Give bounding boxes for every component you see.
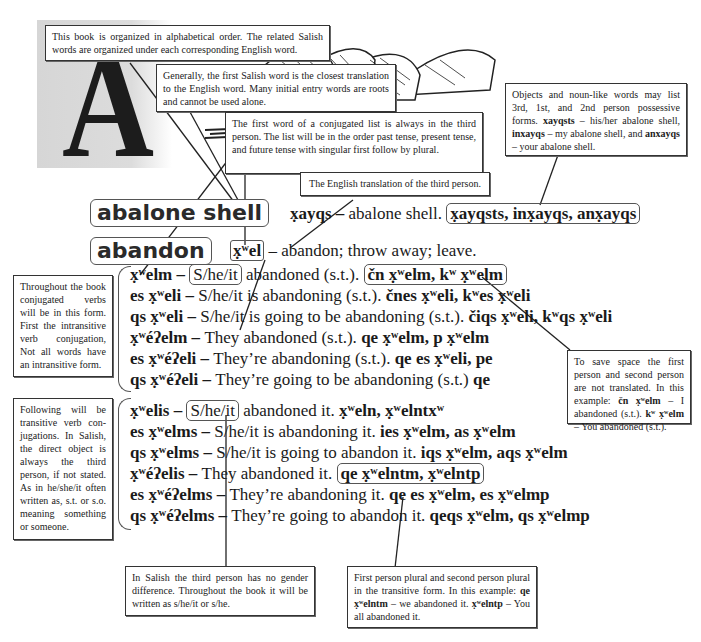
conj-row: es x̣ʷéʔelms – They’re abandoning it. qe… xyxy=(130,484,550,506)
conj-other-persons: qe x̣ʷelntm, x̣ʷelntp xyxy=(337,463,485,484)
conj-subject: S/he/it xyxy=(189,264,241,285)
conj-gloss: abandoning it. xyxy=(283,485,389,504)
conj-gloss: going to abandon it. xyxy=(285,506,429,525)
conj-form: x̣ʷelis – xyxy=(130,401,186,420)
conj-form: qs x̣ʷeli – xyxy=(130,307,200,326)
possessive-form-3rd: xayqsts xyxy=(543,115,575,126)
conj-row: qs x̣ʷéʔeli – They’re going to be abando… xyxy=(130,369,490,391)
conj-row: x̣ʷelm – S/he/it abandoned (s.t.). čn x̣… xyxy=(130,264,507,286)
fsp-form-1: čn x̣ʷelm xyxy=(618,395,660,406)
conj-gloss: is going to abandon it. xyxy=(261,443,421,462)
conj-subject: S/he/it xyxy=(186,400,238,421)
conj-row: es x̣ʷelms – S/he/it is abandoning it. i… xyxy=(130,421,516,443)
conj-other-persons: iqs x̣ʷelm, aqs x̣ʷelm xyxy=(421,443,568,462)
conj-gloss: abandoned it. xyxy=(239,401,339,420)
possessive-forms: x̣ayqsts, inx̣ayqs, anx̣ayqs xyxy=(446,203,640,224)
conj-subject: S/he/it xyxy=(216,443,260,462)
conj-subject: S/he/it xyxy=(214,422,258,441)
salish-root: x̣ʷel xyxy=(230,240,264,261)
conj-subject: They xyxy=(204,328,239,347)
pt-form-2: x̣ʷelntp xyxy=(472,598,503,609)
dash: – xyxy=(264,241,281,260)
conj-subject: They’re xyxy=(215,370,269,389)
conj-gloss: abandoning (s.t.). xyxy=(267,349,394,368)
conj-subject: S/he/it xyxy=(200,307,244,326)
conj-subject: They’re xyxy=(229,485,283,504)
conj-gloss: abandoned (s.t.). xyxy=(239,328,361,347)
conj-form: qs x̣ʷéʔelms – xyxy=(130,506,231,525)
dash: – xyxy=(332,204,349,223)
conj-form: x̣ʷelm – xyxy=(130,265,189,284)
note-english-translation: The English translation of the third per… xyxy=(300,172,490,196)
conj-row: x̣ʷéʔelm – They abandoned (s.t.). qe x̣ʷ… xyxy=(130,327,489,349)
conj-other-persons: čn x̣ʷelm, kʷ x̣ʷelm xyxy=(364,264,507,285)
possessive-gloss-1st: – my abalone shell, and xyxy=(545,128,645,139)
note-transitive-form: Following will be transitive verb con-ju… xyxy=(13,398,113,540)
conj-form: qs x̣ʷelms – xyxy=(130,443,216,462)
english-gloss: abandon; throw away; leave. xyxy=(281,241,476,260)
pt-intro: First person plural and second person pl… xyxy=(354,572,530,596)
possessive-gloss-2nd: – your abalone shell. xyxy=(512,141,595,152)
possessive-form-2nd: anxayqs xyxy=(645,128,680,139)
conj-other-persons: ies x̣ʷelm, as x̣ʷelm xyxy=(380,422,516,441)
conj-gloss: is going to be abandoning (s.t.). xyxy=(245,307,469,326)
conj-row: es x̣ʷeli – S/he/it is abandoning (s.t.)… xyxy=(130,285,531,307)
conj-subject: They xyxy=(202,464,237,483)
conj-gloss: abandoned (s.t.). xyxy=(242,265,360,284)
conj-gloss: abandoned it. xyxy=(236,464,336,483)
conj-form: es x̣ʷéʔeli – xyxy=(130,349,213,368)
headword-abandon: abandon xyxy=(90,237,212,265)
conj-other-persons: x̣ʷeln, x̣ʷelntxʷ xyxy=(339,401,444,420)
note-gender: In Salish the third person has no gender… xyxy=(125,566,315,616)
note-intransitive-form: Throughout the book conjugated verbs wil… xyxy=(13,275,113,377)
conj-form: x̣ʷéʔelm – xyxy=(130,328,204,347)
fsp-gloss-2: – You abandoned (s.t.). xyxy=(574,421,667,432)
conj-other-persons: qe es x̣ʷelm, es x̣ʷelmp xyxy=(389,485,550,504)
conj-subject: They’re xyxy=(231,506,285,525)
conj-subject: They’re xyxy=(213,349,267,368)
conj-subject: S/he/it xyxy=(198,286,242,305)
conj-form: es x̣ʷeli – xyxy=(130,286,198,305)
entry-abalone-shell: x̣ayqs – abalone shell. x̣ayqsts, inx̣ay… xyxy=(290,203,640,225)
english-gloss: abalone shell. xyxy=(349,204,442,223)
possessive-gloss-3rd: – his/her abalone shell, xyxy=(575,115,680,126)
conj-row: x̣ʷéʔelis – They abandoned it. qe x̣ʷeln… xyxy=(130,463,484,485)
note-conjugated-list: The first word of a conjugated list is a… xyxy=(225,112,483,174)
fsp-form-2: kʷ x̣ʷelm xyxy=(646,408,684,419)
note-first-salish-word: Generally, the first Salish word is the … xyxy=(156,64,396,112)
conj-row: qs x̣ʷeli – S/he/it is going to be aband… xyxy=(130,306,612,328)
conj-row: qs x̣ʷelms – S/he/it is going to abandon… xyxy=(130,442,568,464)
conj-gloss: going to be abandoning (s.t.) xyxy=(269,370,473,389)
pt-gloss-1: – we abandoned it. xyxy=(388,598,472,609)
conj-form: qs x̣ʷéʔeli – xyxy=(130,370,215,389)
conj-form: es x̣ʷelms – xyxy=(130,422,214,441)
conj-other-persons: čiqs x̣ʷeli, kʷqs x̣ʷeli xyxy=(468,307,612,326)
conj-gloss: is abandoning it. xyxy=(259,422,380,441)
conj-gloss: is abandoning (s.t.). xyxy=(243,286,386,305)
note-alphabetical-order: This book is organized in alphabetical o… xyxy=(45,25,330,61)
conj-form: x̣ʷéʔelis – xyxy=(130,464,202,483)
headword-abalone-shell: abalone shell xyxy=(90,199,269,227)
note-plural-transitive: First person plural and second person pl… xyxy=(347,566,537,628)
conj-other-persons: qe es x̣ʷeli, pe xyxy=(395,349,493,368)
note-possessive-forms: Objects and noun-like words may list 3rd… xyxy=(505,83,687,156)
conj-row: qs x̣ʷéʔelms – They’re going to abandon … xyxy=(130,505,590,527)
conj-other-persons: čnes x̣ʷeli, kʷes x̣ʷeli xyxy=(386,286,531,305)
conj-other-persons: qeqs x̣ʷelm, qs x̣ʷelmp xyxy=(430,506,590,525)
conj-other-persons: qe x̣ʷelm, p x̣ʷelm xyxy=(361,328,489,347)
entry-abandon: x̣ʷel – abandon; throw away; leave. xyxy=(230,240,477,262)
possessive-form-1st: inxayqs xyxy=(512,128,545,139)
conj-row: x̣ʷelis – S/he/it abandoned it. x̣ʷeln, … xyxy=(130,400,444,422)
conj-other-persons: qe xyxy=(473,370,490,389)
conj-form: es x̣ʷéʔelms – xyxy=(130,485,229,504)
conj-row: es x̣ʷéʔeli – They’re abandoning (s.t.).… xyxy=(130,348,493,370)
note-first-second-person: To save space the first person and secon… xyxy=(567,350,691,424)
salish-word: x̣ayqs xyxy=(290,204,332,223)
